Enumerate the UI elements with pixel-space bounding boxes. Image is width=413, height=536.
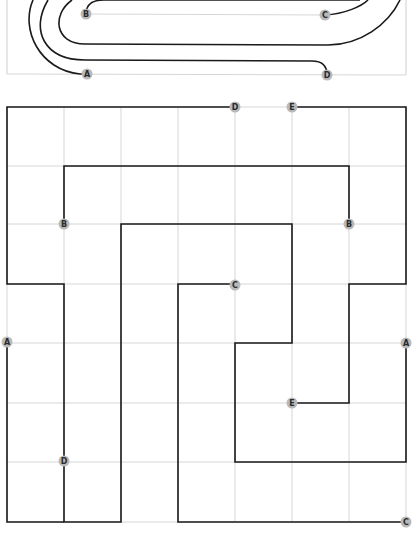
terminal-label-c: C: [320, 10, 331, 21]
terminal-letter: B: [83, 10, 89, 19]
top-panel: [7, 0, 406, 75]
terminal-label-c: C: [230, 280, 241, 291]
terminal-label-a: A: [82, 69, 93, 80]
terminal-letter: E: [289, 399, 294, 408]
terminal-letter: A: [4, 338, 11, 347]
terminal-letter: B: [61, 220, 67, 229]
wire-loop-inner: [59, 0, 400, 45]
terminal-letter: C: [322, 11, 328, 20]
wire-path-a-left: [7, 343, 64, 522]
terminal-letter: C: [403, 518, 409, 527]
terminal-label-b: B: [59, 219, 70, 230]
terminal-label-a: A: [401, 338, 412, 349]
terminal-label-b: B: [344, 219, 355, 230]
top-panel-mid-guide: [86, 14, 325, 15]
wire-loop-outer: [29, 0, 87, 74]
wiring-diagram: BCADDEBBCAAEDC: [0, 0, 413, 536]
terminal-letter: A: [84, 70, 91, 79]
labels: BCADDEBBCAAEDC: [2, 9, 412, 528]
terminal-label-d: D: [230, 102, 241, 113]
terminal-letter: C: [232, 281, 238, 290]
terminal-letter: D: [324, 71, 331, 80]
top-panel-bottom-guide: [7, 74, 406, 75]
terminal-letter: E: [289, 103, 294, 112]
wire-b: [86, 0, 360, 14]
wire-path-b: [64, 166, 349, 224]
terminal-label-b: B: [81, 9, 92, 20]
terminal-label-e: E: [287, 102, 298, 113]
terminal-letter: D: [61, 457, 68, 466]
terminal-label-d: D: [59, 456, 70, 467]
terminal-label-a: A: [2, 337, 13, 348]
terminal-label-e: E: [287, 398, 298, 409]
terminal-letter: A: [403, 339, 410, 348]
terminal-letter: D: [232, 103, 239, 112]
terminal-label-d: D: [322, 70, 333, 81]
terminal-letter: B: [346, 220, 352, 229]
wire-c: [325, 0, 368, 15]
terminal-label-c: C: [401, 517, 412, 528]
